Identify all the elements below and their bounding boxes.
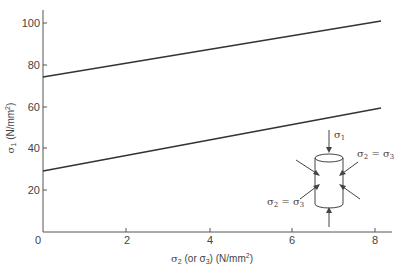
y-ticks <box>43 23 47 190</box>
svg-text:40: 40 <box>28 142 40 154</box>
svg-text:4: 4 <box>207 234 213 246</box>
svg-text:100: 100 <box>22 17 40 29</box>
chart: 100 80 60 40 20 0 2 4 6 8 σ2 (or σ3) (N/… <box>0 0 405 270</box>
y-axis-label: σ1 (N/mm2) <box>4 103 17 154</box>
svg-text:6: 6 <box>289 234 295 246</box>
x-ticks <box>126 228 375 232</box>
y-tick-labels: 100 80 60 40 20 0 <box>22 17 41 246</box>
svg-text:0: 0 <box>35 234 41 246</box>
svg-text:80: 80 <box>28 59 40 71</box>
sigma1-label: σ1 <box>334 129 345 142</box>
svg-text:8: 8 <box>372 234 378 246</box>
svg-text:20: 20 <box>28 184 40 196</box>
upper-series-line <box>43 21 381 77</box>
lateral-label-right: σ2 = σ3 <box>357 148 394 161</box>
triaxial-specimen-diagram: σ1 σ2 = σ3 σ2 = σ3 <box>267 129 394 227</box>
x-axis-label: σ2 (or σ3) (N/mm2) <box>171 252 253 265</box>
x-tick-labels: 2 4 6 8 <box>124 234 378 246</box>
svg-text:60: 60 <box>28 101 40 113</box>
svg-text:2: 2 <box>124 234 130 246</box>
lateral-label-left: σ2 = σ3 <box>267 196 304 209</box>
